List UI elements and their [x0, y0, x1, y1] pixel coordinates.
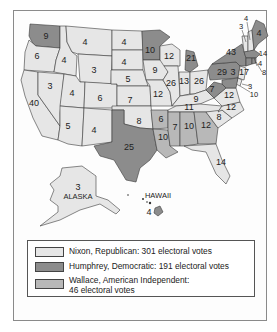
- svg-text:4: 4: [258, 59, 262, 68]
- svg-text:3: 3: [239, 22, 243, 31]
- svg-text:10: 10: [184, 121, 194, 131]
- svg-text:12: 12: [153, 89, 163, 99]
- svg-text:25: 25: [124, 142, 134, 152]
- svg-text:4: 4: [256, 28, 261, 38]
- state-montana: [66, 26, 112, 56]
- svg-text:8: 8: [262, 68, 266, 77]
- legend-label-wallace: Wallace, American Independent: 46 electo…: [69, 275, 189, 295]
- svg-text:14: 14: [259, 49, 267, 58]
- state-south-dakota: [112, 50, 143, 70]
- state-kansas: [117, 86, 151, 106]
- svg-text:3: 3: [47, 81, 52, 91]
- legend-item-wallace: Wallace, American Independent: 46 electo…: [35, 275, 189, 295]
- svg-text:4: 4: [146, 207, 151, 217]
- svg-text:9: 9: [193, 94, 198, 104]
- svg-text:4: 4: [61, 55, 66, 65]
- state-connecticut: [246, 58, 252, 66]
- svg-text:4: 4: [91, 125, 96, 135]
- state-arizona: [58, 106, 84, 146]
- svg-text:3: 3: [75, 182, 80, 192]
- svg-text:12: 12: [164, 51, 174, 61]
- svg-text:14: 14: [216, 157, 226, 167]
- svg-text:5: 5: [125, 74, 130, 84]
- svg-text:3: 3: [230, 67, 235, 77]
- svg-text:4: 4: [121, 37, 126, 47]
- legend-item-humphrey: Humphrey, Democratic: 191 electoral vote…: [35, 261, 229, 272]
- svg-text:26: 26: [194, 76, 204, 86]
- legend-label-nixon: Nixon, Republican: 301 electoral votes: [69, 246, 212, 256]
- svg-text:17: 17: [239, 67, 249, 77]
- svg-text:43: 43: [226, 47, 236, 57]
- svg-text:40: 40: [29, 98, 39, 108]
- svg-text:4: 4: [121, 57, 126, 67]
- svg-text:6: 6: [97, 93, 102, 103]
- svg-text:26: 26: [166, 78, 176, 88]
- legend-label-wallace-line2: 46 electoral votes: [69, 285, 189, 295]
- svg-text:7: 7: [127, 95, 132, 105]
- svg-text:4: 4: [69, 88, 74, 98]
- svg-text:29: 29: [217, 67, 227, 77]
- svg-text:13: 13: [179, 76, 189, 86]
- state-north-dakota: [112, 30, 143, 50]
- wallace-swatch: [35, 279, 64, 289]
- svg-text:7: 7: [209, 84, 214, 94]
- svg-text:ALASKA: ALASKA: [63, 192, 92, 201]
- state-new-mexico: [82, 108, 112, 146]
- svg-text:12: 12: [226, 102, 236, 112]
- svg-text:10: 10: [158, 132, 168, 142]
- legend-label-humphrey: Humphrey, Democratic: 191 electoral vote…: [69, 261, 229, 271]
- svg-text:8: 8: [136, 116, 141, 126]
- svg-text:12: 12: [224, 90, 234, 100]
- svg-text:9: 9: [152, 65, 157, 75]
- humphrey-swatch: [35, 262, 64, 272]
- svg-text:5: 5: [65, 121, 70, 131]
- svg-text:3: 3: [91, 65, 96, 75]
- svg-text:11: 11: [184, 102, 193, 112]
- svg-text:7: 7: [172, 122, 177, 132]
- svg-text:10: 10: [250, 90, 258, 99]
- svg-text:6: 6: [34, 51, 39, 61]
- state-maryland: [222, 78, 238, 88]
- state-hawaii: [154, 206, 163, 216]
- svg-text:10: 10: [145, 45, 155, 55]
- svg-text:8: 8: [216, 112, 221, 122]
- state-rhode-island: [252, 58, 256, 64]
- svg-text:4: 4: [244, 14, 248, 23]
- svg-text:12: 12: [201, 120, 211, 130]
- svg-text:6: 6: [158, 114, 163, 124]
- svg-text:HAWAII: HAWAII: [145, 191, 171, 200]
- legend: Nixon, Republican: 301 electoral votes H…: [27, 240, 255, 297]
- nixon-swatch: [35, 247, 64, 257]
- svg-text:9: 9: [43, 31, 48, 41]
- legend-item-nixon: Nixon, Republican: 301 electoral votes: [35, 246, 212, 257]
- svg-text:21: 21: [186, 53, 196, 63]
- legend-label-wallace-line1: Wallace, American Independent:: [69, 275, 189, 285]
- svg-text:4: 4: [82, 37, 87, 47]
